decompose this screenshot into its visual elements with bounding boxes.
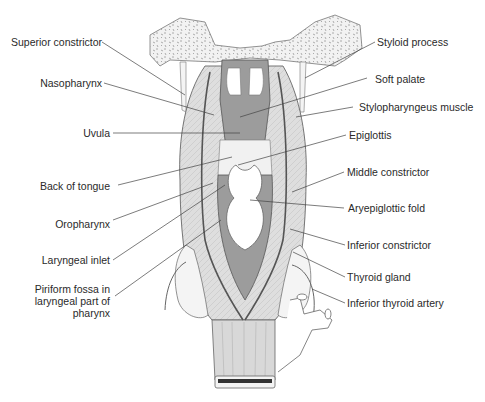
label-soft-palate: Soft palate <box>375 73 425 85</box>
pharynx-diagram <box>0 0 485 402</box>
label-superior-constrictor: Superior constrictor <box>11 36 102 48</box>
styloid-right <box>300 62 306 112</box>
label-inferior-thyroid-artery: Inferior thyroid artery <box>347 297 444 309</box>
label-epiglottis: Epiglottis <box>349 129 392 141</box>
label-piriform-fossa: Piriform fossa in laryngeal part of phar… <box>0 283 110 319</box>
label-uvula: Uvula <box>83 127 110 139</box>
label-piriform-line1: Piriform fossa in <box>0 283 110 295</box>
label-back-of-tongue: Back of tongue <box>40 180 110 192</box>
skull-base-bone <box>150 15 362 66</box>
label-stylopharyngeus-muscle: Stylopharyngeus muscle <box>359 101 473 113</box>
label-piriform-line2: laryngeal part of <box>0 295 110 307</box>
label-laryngeal-inlet: Laryngeal inlet <box>42 254 110 266</box>
label-piriform-line3: pharynx <box>0 307 110 319</box>
label-aryepiglottic-fold: Aryepiglottic fold <box>348 202 425 214</box>
label-inferior-constrictor: Inferior constrictor <box>347 239 431 251</box>
label-thyroid-gland: Thyroid gland <box>347 271 411 283</box>
label-styloid-process: Styloid process <box>377 36 448 48</box>
label-oropharynx: Oropharynx <box>55 218 110 230</box>
label-middle-constrictor: Middle constrictor <box>347 166 429 178</box>
styloid-left <box>180 62 186 112</box>
label-nasopharynx: Nasopharynx <box>40 77 102 89</box>
